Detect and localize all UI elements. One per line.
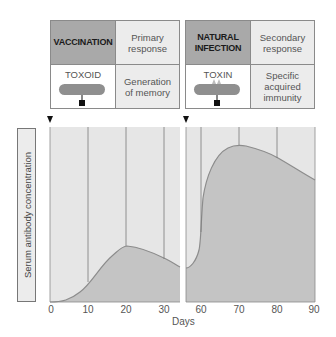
x-tick-70: 70 <box>233 304 244 315</box>
antibody-chart <box>0 0 336 337</box>
secondary-response-plot <box>186 127 315 302</box>
x-tick-80: 80 <box>271 304 282 315</box>
x-tick-20: 20 <box>120 304 131 315</box>
x-tick-60: 60 <box>195 304 206 315</box>
x-axis-label: Days <box>172 316 195 327</box>
x-tick-0: 0 <box>48 304 54 315</box>
x-tick-30: 30 <box>158 304 169 315</box>
x-tick-10: 10 <box>82 304 93 315</box>
primary-response-plot <box>50 127 180 302</box>
x-tick-90: 90 <box>308 304 319 315</box>
